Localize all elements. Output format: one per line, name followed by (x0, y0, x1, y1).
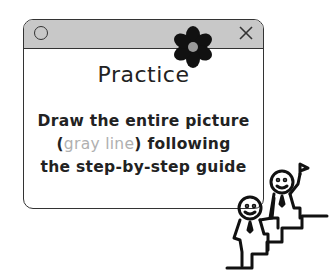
close-icon[interactable] (237, 23, 255, 43)
instruction-line-2: (gray line) following (24, 133, 263, 156)
gray-line-label: gray line (64, 135, 134, 153)
climbing-people-flag-illustration (212, 158, 332, 276)
circle-icon[interactable] (34, 26, 48, 40)
window-titlebar (24, 20, 263, 49)
instruction-line-1: Draw the entire picture (24, 110, 263, 133)
page-title: Practice (24, 62, 263, 87)
flower-icon (172, 23, 214, 71)
